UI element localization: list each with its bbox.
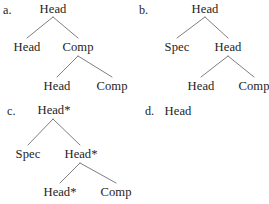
- tree-a-node-root: Head: [40, 3, 67, 16]
- syntactic-tree-figure: a. Head Head Comp Head Comp b. Head Spec…: [0, 0, 269, 204]
- tree-b-label: b.: [139, 4, 148, 17]
- tree-c-node-root: Head*: [38, 104, 71, 117]
- tree-c-node-left1: Spec: [16, 148, 41, 161]
- tree-b-node-left2: Head: [188, 80, 215, 93]
- tree-d-label: d.: [145, 105, 154, 118]
- tree-c-node-left2: Head*: [44, 186, 77, 199]
- tree-a-node-right1: Comp: [62, 41, 93, 54]
- tree-b-node-left1: Spec: [165, 41, 190, 54]
- tree-c-label: c.: [7, 105, 15, 118]
- tree-a-node-left1: Head: [14, 41, 41, 54]
- tree-d-node-root: Head: [165, 105, 192, 118]
- tree-a-label: a.: [3, 4, 11, 17]
- tree-a-node-left2: Head: [44, 80, 71, 93]
- tree-a-node-right2: Comp: [96, 80, 127, 93]
- tree-b-node-right2: Comp: [238, 80, 269, 93]
- tree-b-node-right1: Head: [215, 41, 242, 54]
- tree-branch-lines: [0, 0, 269, 204]
- tree-b-node-root: Head: [192, 3, 219, 16]
- tree-c-node-right2: Comp: [100, 186, 131, 199]
- tree-c-node-right1: Head*: [65, 148, 98, 161]
